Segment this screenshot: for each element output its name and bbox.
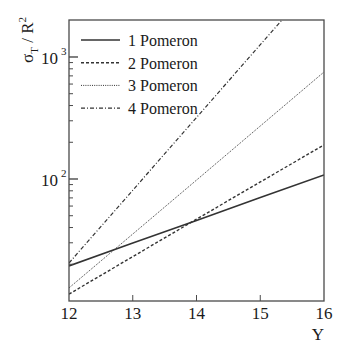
y-tick-label: 102 (41, 167, 67, 190)
svg-text:σT / R2: σT / R2 (16, 17, 40, 63)
chart: 1213141516102103 1 Pomeron2 Pomeron3 Pom… (0, 0, 348, 356)
legend-item: 2 Pomeron (81, 55, 198, 72)
legend-item: 1 Pomeron (81, 32, 198, 49)
x-tick-label: 16 (316, 304, 333, 323)
y-label-mid: / R (18, 22, 37, 47)
x-tick-label: 15 (252, 304, 269, 323)
y-label-sup: 2 (16, 17, 28, 23)
x-tick-label: 14 (188, 304, 206, 323)
legend-item: 4 Pomeron (81, 100, 198, 117)
y-axis-label: σT / R2 (16, 17, 40, 63)
y-label-sigma: σ (18, 54, 37, 63)
legend: 1 Pomeron2 Pomeron3 Pomeron4 Pomeron (81, 32, 198, 117)
x-axis-label: Y (312, 325, 324, 344)
legend-label: 1 Pomeron (128, 32, 198, 49)
legend-label: 2 Pomeron (128, 55, 198, 72)
legend-label: 4 Pomeron (128, 100, 198, 117)
legend-label: 3 Pomeron (128, 77, 198, 94)
x-tick-label: 13 (124, 304, 141, 323)
y-tick-label: 103 (41, 45, 67, 68)
legend-item: 3 Pomeron (81, 77, 198, 94)
series-line-1-pomeron (69, 175, 324, 266)
x-tick-label: 12 (61, 304, 78, 323)
